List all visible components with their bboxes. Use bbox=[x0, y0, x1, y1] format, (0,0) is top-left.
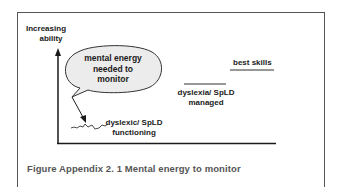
functioning-label-line2: functioning bbox=[103, 128, 165, 138]
arrow-down-icon bbox=[80, 115, 86, 123]
arrow-up-icon bbox=[55, 48, 61, 56]
managed-label: dyslexia/ SpLD managed bbox=[176, 88, 236, 108]
pointer-arrow bbox=[72, 97, 86, 123]
functioning-label: dyslexic/ SpLD functioning bbox=[103, 118, 165, 138]
y-axis bbox=[55, 48, 61, 143]
bubble-text-line1: mental energy bbox=[80, 53, 146, 64]
best-skills-label: best skills bbox=[233, 58, 272, 68]
functioning-label-line1: dyslexic/ SpLD bbox=[103, 118, 165, 128]
bubble-text: mental energy needed to monitor bbox=[80, 53, 146, 85]
y-axis-label: Increasing ability bbox=[26, 24, 66, 44]
bubble-text-line2: needed to bbox=[80, 64, 146, 75]
managed-label-line2: managed bbox=[176, 98, 236, 108]
y-axis-label-line1: Increasing bbox=[26, 24, 66, 34]
figure-caption: Figure Appendix 2. 1 Mental energy to mo… bbox=[27, 163, 241, 174]
managed-label-line1: dyslexia/ SpLD bbox=[176, 88, 236, 98]
bubble-text-line3: monitor bbox=[80, 74, 146, 85]
y-axis-label-line2: ability bbox=[26, 34, 66, 44]
